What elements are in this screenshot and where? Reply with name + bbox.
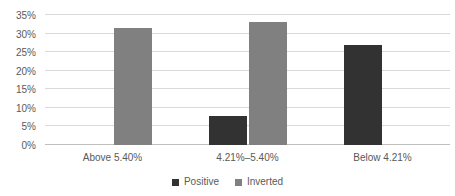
legend-label: Positive [184,176,219,188]
legend-item[interactable]: Positive [172,176,219,188]
bar-group [180,15,315,145]
x-axis-tick-label: Below 4.21% [315,149,450,167]
y-axis-tick-label: 5% [22,121,36,132]
y-axis-tick-label: 25% [16,47,36,58]
y-axis-tick-label: 0% [22,140,36,151]
chart-legend: PositiveInverted [0,174,455,190]
y-axis-tick-label: 20% [16,65,36,76]
y-axis: 0%5%10%15%20%25%30%35% [0,15,40,145]
bar-group [45,15,180,145]
legend-swatch-icon [235,179,242,186]
plot-area [45,15,450,145]
bar-positive[interactable] [344,45,382,145]
y-axis-tick-label: 30% [16,28,36,39]
legend-label: Inverted [247,176,283,188]
legend-swatch-icon [172,179,179,186]
bar-inverted[interactable] [249,22,287,145]
bar-chart: 0%5%10%15%20%25%30%35% Above 5.40%4.21%–… [0,0,455,196]
x-axis-tick-label: 4.21%–5.40% [180,149,315,167]
y-axis-tick-label: 15% [16,84,36,95]
x-axis-tick-label: Above 5.40% [45,149,180,167]
bar-positive[interactable] [209,116,247,145]
bar-groups [45,15,450,145]
x-axis: Above 5.40%4.21%–5.40%Below 4.21% [45,149,450,167]
bar-group [315,15,450,145]
y-axis-tick-label: 35% [16,10,36,21]
legend-item[interactable]: Inverted [235,176,283,188]
y-axis-tick-label: 10% [16,102,36,113]
bar-inverted[interactable] [114,28,152,145]
